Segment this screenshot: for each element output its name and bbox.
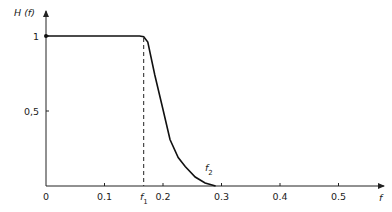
x-tick-label: 0.1 bbox=[97, 191, 112, 202]
x-tick-label: 0 bbox=[43, 191, 49, 202]
x-tick-label: 0.4 bbox=[272, 191, 287, 202]
y-tick-label: 1 bbox=[33, 31, 39, 42]
frequency-response-chart: 00.10.20.30.40.5 0,51 H (f) f f1 f2 bbox=[0, 0, 392, 212]
f2-label: f2 bbox=[205, 162, 213, 177]
y-ticks: 0,51 bbox=[24, 31, 49, 117]
response-curve bbox=[46, 36, 216, 186]
origin-point-h1 bbox=[44, 34, 48, 38]
x-tick-label: 0.2 bbox=[155, 191, 170, 202]
y-tick-label: 0,5 bbox=[24, 106, 39, 117]
f1-label: f1 bbox=[140, 191, 148, 206]
x-tick-label: 0.5 bbox=[331, 191, 346, 202]
x-axis-label: f bbox=[379, 192, 384, 203]
y-axis-label: H (f) bbox=[14, 7, 35, 18]
x-tick-label: 0.3 bbox=[214, 191, 229, 202]
